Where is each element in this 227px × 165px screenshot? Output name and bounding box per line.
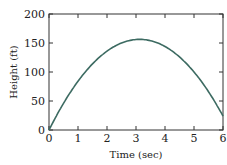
chart: 0123456 050100150200 Time (sec) Height (… xyxy=(0,0,227,165)
x-tick-label: 6 xyxy=(220,132,227,145)
x-tick-label: 5 xyxy=(191,132,198,145)
y-tick-label: 200 xyxy=(24,8,45,21)
x-tick-label: 4 xyxy=(162,132,169,145)
y-axis-label: Height (ft) xyxy=(8,45,19,98)
x-tick-label: 0 xyxy=(46,132,53,145)
height-curve xyxy=(49,39,223,130)
y-tick-label: 50 xyxy=(31,95,45,108)
y-tick-label: 0 xyxy=(38,124,45,137)
y-tick-label: 150 xyxy=(24,37,45,50)
x-tick-label: 3 xyxy=(133,132,140,145)
y-axis: 050100150200 xyxy=(24,8,223,137)
x-tick-label: 2 xyxy=(104,132,111,145)
x-axis-label: Time (sec) xyxy=(110,149,163,160)
y-tick-label: 100 xyxy=(24,66,45,79)
x-tick-label: 1 xyxy=(75,132,82,145)
plot-frame xyxy=(49,14,223,130)
